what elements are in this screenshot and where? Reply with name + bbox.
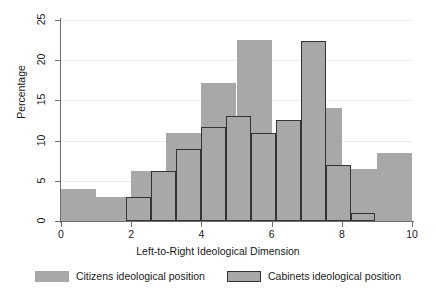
bar-citizens-0	[61, 189, 96, 221]
histogram-figure: Percentage 0510152025 0246810 Left-to-Ri…	[0, 0, 436, 300]
y-tick-label: 20	[36, 49, 47, 71]
y-tick	[55, 60, 60, 61]
x-tick	[201, 222, 202, 227]
x-tick	[272, 222, 273, 227]
y-tick-label: 5	[36, 169, 47, 191]
y-axis-title: Percentage	[15, 47, 27, 137]
y-tick	[55, 20, 60, 21]
bar-cabinets-4	[226, 116, 251, 221]
x-tick	[131, 222, 132, 227]
bar-cabinets-5	[251, 133, 276, 221]
legend-swatch-icon	[227, 271, 261, 282]
bar-cabinets-2	[176, 149, 201, 221]
plot-area	[61, 20, 412, 221]
y-tick	[55, 141, 60, 142]
y-tick-label: 10	[36, 129, 47, 151]
y-tick	[55, 181, 60, 182]
bar-cabinets-3	[201, 127, 226, 221]
legend-label: Citizens ideological position	[76, 270, 205, 282]
legend-swatch-icon	[35, 271, 69, 282]
bar-cabinets-0	[126, 197, 151, 221]
x-tick-label: 8	[330, 228, 354, 240]
y-tick-label: 15	[36, 89, 47, 111]
y-tick-label: 25	[36, 9, 47, 31]
x-tick	[61, 222, 62, 227]
legend-label: Cabinets ideological position	[268, 270, 401, 282]
y-tick	[55, 221, 60, 222]
x-tick-label: 6	[260, 228, 284, 240]
legend-item-citizens[interactable]: Citizens ideological position	[35, 270, 205, 282]
x-axis-title: Left-to-Right Ideological Dimension	[0, 245, 436, 257]
bar-cabinets-8	[326, 165, 351, 221]
y-tick	[55, 100, 60, 101]
bar-cabinets-1	[151, 171, 176, 221]
bar-citizens-9	[377, 153, 412, 221]
x-tick-label: 0	[49, 228, 73, 240]
bar-cabinets-9	[351, 213, 376, 221]
x-tick	[342, 222, 343, 227]
x-tick	[412, 222, 413, 227]
legend-item-cabinets[interactable]: Cabinets ideological position	[227, 270, 401, 282]
x-tick-label: 4	[189, 228, 213, 240]
bar-cabinets-7	[301, 41, 326, 221]
x-tick-label: 2	[119, 228, 143, 240]
x-tick-label: 10	[400, 228, 424, 240]
chart-legend: Citizens ideological positionCabinets id…	[0, 270, 436, 282]
x-axis-line	[58, 221, 414, 222]
bar-cabinets-6	[276, 120, 301, 221]
y-tick-label: 0	[36, 210, 47, 232]
